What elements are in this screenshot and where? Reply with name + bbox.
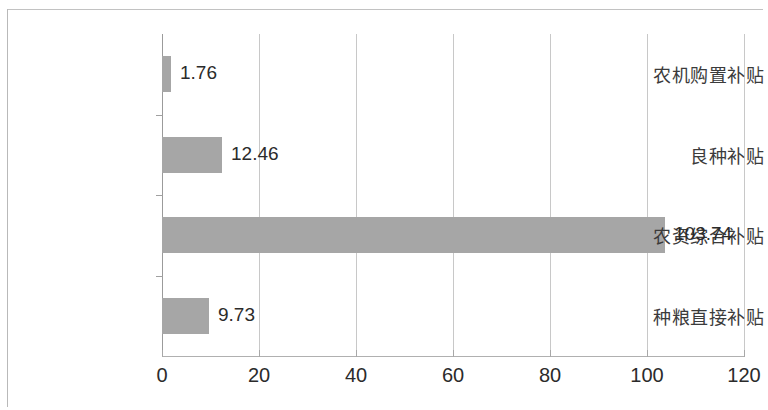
y-axis-tick: [156, 195, 163, 196]
x-tick-label: 40: [321, 364, 391, 387]
x-tick-label: 120: [709, 364, 768, 387]
bar: [162, 217, 665, 253]
gridline: [550, 34, 551, 356]
x-tick-label: 100: [612, 364, 682, 387]
x-tick-label: 60: [418, 364, 488, 387]
category-label: 良种补贴: [610, 142, 768, 168]
bar: [162, 56, 171, 92]
gridline: [356, 34, 357, 356]
bar: [162, 137, 222, 173]
x-axis-tick: [356, 350, 357, 357]
gridline: [453, 34, 454, 356]
bar-value-label: 103.74: [674, 223, 732, 245]
category-label: 农机购置补贴: [610, 61, 768, 87]
bar-value-label: 1.76: [180, 62, 217, 84]
y-axis-tick: [156, 276, 163, 277]
x-tick-label: 20: [224, 364, 294, 387]
x-axis-tick: [550, 350, 551, 357]
bar-value-label: 12.46: [231, 143, 279, 165]
x-axis-tick: [259, 350, 260, 357]
x-axis-tick: [744, 350, 745, 357]
bar: [162, 298, 209, 334]
x-tick-label: 80: [515, 364, 585, 387]
x-axis-tick: [453, 350, 454, 357]
page-frame-top-edge: [8, 9, 763, 10]
category-label: 种粮直接补贴: [610, 303, 768, 329]
x-axis-tick: [647, 350, 648, 357]
bar-value-label: 9.73: [218, 304, 255, 326]
bar-chart: 农机购置补贴良种补贴农资综合补贴种粮直接补贴 1.7612.46103.749.…: [0, 0, 768, 410]
gridline: [259, 34, 260, 356]
x-axis-tick: [162, 350, 163, 357]
y-axis-tick: [156, 115, 163, 116]
x-tick-label: 0: [127, 364, 197, 387]
